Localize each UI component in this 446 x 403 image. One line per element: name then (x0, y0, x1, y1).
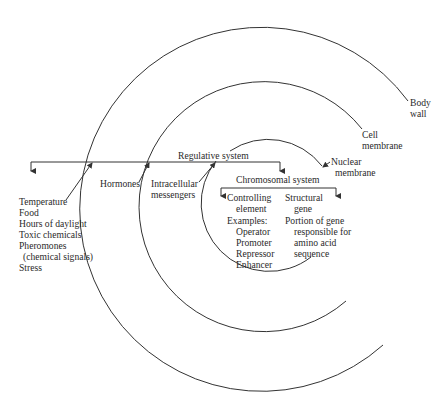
temperature-leader (66, 163, 92, 200)
chromosomal-system-label: Chromosomal system (236, 174, 319, 185)
nuclear-membrane-line2: membrane (331, 167, 376, 178)
factor-toxic: Toxic chemicals (19, 229, 93, 240)
regulative-system-label: Regulative system (178, 150, 249, 161)
intracellular-leader (199, 163, 215, 182)
structural-desc-3: amino acid (285, 237, 351, 248)
body-wall-line1: Body (410, 97, 431, 108)
example-enhancer: Enhancer (227, 259, 274, 270)
cell-membrane-label: Cell membrane (362, 129, 403, 151)
intracellular-messengers-label: Intracellular messengers (151, 178, 198, 200)
controlling-title-1: Controlling (227, 192, 274, 203)
structural-desc-2: responsible for (285, 226, 351, 237)
cell-membrane-line1: Cell (362, 129, 403, 140)
factor-stress: Stress (19, 262, 93, 273)
factor-chemical-signals: (chemical signals) (19, 251, 93, 262)
body-wall-label: Body wall (410, 97, 431, 119)
example-operator: Operator (227, 226, 274, 237)
nuclear-membrane-line1: Nuclear (331, 156, 376, 167)
intracellular-line2: messengers (151, 189, 198, 200)
controlling-title-2: element (227, 203, 274, 214)
body-wall-line2: wall (410, 108, 431, 119)
factor-food: Food (19, 207, 93, 218)
structural-desc-1: Portion of gene (285, 215, 351, 226)
cell-membrane-line2: membrane (362, 140, 403, 151)
factor-temperature: Temperature (19, 196, 93, 207)
hormones-leader (139, 163, 149, 182)
structural-gene-block: Structural gene Portion of gene responsi… (285, 192, 351, 259)
structural-title-2: gene (285, 203, 351, 214)
factor-daylight: Hours of daylight (19, 218, 93, 229)
structural-desc-4: sequence (285, 248, 351, 259)
controlling-element-block: Controlling element Examples: Operator P… (227, 192, 274, 270)
nuclear-leader (323, 162, 330, 167)
intracellular-line1: Intracellular (151, 178, 198, 189)
hormones-label: Hormones (100, 178, 140, 189)
environmental-factors-list: Temperature Food Hours of daylight Toxic… (19, 196, 93, 273)
examples-label: Examples: (227, 215, 274, 226)
nuclear-membrane-label: Nuclear membrane (331, 156, 376, 178)
structural-title-1: Structural (285, 192, 351, 203)
example-repressor: Repressor (227, 248, 274, 259)
factor-pheromones: Pheromones (19, 240, 93, 251)
example-promoter: Promoter (227, 237, 274, 248)
